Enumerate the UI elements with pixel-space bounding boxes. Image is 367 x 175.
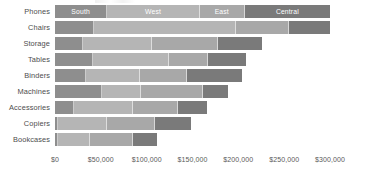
category-label-accessories: Accessories	[0, 101, 50, 114]
stacked-bar-tables[interactable]	[55, 53, 246, 66]
bar-row: PhonesSouthWestEastCentral	[0, 5, 367, 18]
bar-segment-west[interactable]	[74, 101, 133, 114]
series-label-south: South	[71, 8, 90, 15]
bar-segment-west[interactable]	[83, 37, 152, 50]
category-label-bookcases: Bookcases	[0, 133, 50, 146]
bar-segment-west[interactable]	[94, 21, 236, 34]
category-label-storage: Storage	[0, 37, 50, 50]
bar-segment-west[interactable]	[86, 69, 140, 82]
bar-segment-west[interactable]	[93, 53, 169, 66]
bar-segment-south[interactable]	[55, 37, 83, 50]
bar-segment-east[interactable]	[140, 69, 187, 82]
bar-segment-south[interactable]: South	[55, 5, 107, 18]
bar-rows: PhonesSouthWestEastCentralChairsStorageT…	[0, 5, 367, 149]
category-label-machines: Machines	[0, 85, 50, 98]
bar-segment-central[interactable]: Central	[245, 5, 330, 18]
stacked-bar-binders[interactable]	[55, 69, 242, 82]
x-axis-tick-6: $300,000	[315, 156, 345, 163]
bar-segment-east[interactable]: East	[200, 5, 245, 18]
bar-segment-south[interactable]	[55, 85, 102, 98]
bar-segment-south[interactable]	[55, 101, 74, 114]
bar-segment-south[interactable]	[55, 21, 94, 34]
category-label-phones: Phones	[0, 5, 50, 18]
x-axis-tick-4: $200,000	[223, 156, 253, 163]
category-label-tables: Tables	[0, 53, 50, 66]
x-axis-tick-3: $150,000	[178, 156, 208, 163]
stacked-bar-copiers[interactable]	[55, 117, 191, 130]
bar-segment-central[interactable]	[208, 53, 246, 66]
bar-row: Storage	[0, 37, 367, 50]
bar-segment-east[interactable]	[133, 101, 178, 114]
plot-area: PhonesSouthWestEastCentralChairsStorageT…	[0, 0, 367, 152]
bar-segment-central[interactable]	[218, 37, 262, 50]
bar-segment-south[interactable]	[55, 69, 86, 82]
category-label-copiers: Copiers	[0, 117, 50, 130]
series-label-west: West	[145, 8, 161, 15]
bar-segment-central[interactable]	[155, 117, 191, 130]
stacked-bar-storage[interactable]	[55, 37, 262, 50]
bar-segment-east[interactable]	[141, 85, 203, 98]
bar-segment-east[interactable]	[169, 53, 208, 66]
bar-segment-east[interactable]	[236, 21, 289, 34]
bar-segment-central[interactable]	[178, 101, 207, 114]
bar-segment-west[interactable]	[58, 117, 108, 130]
category-label-binders: Binders	[0, 69, 50, 82]
x-axis-tick-5: $250,000	[269, 156, 299, 163]
x-axis: $0$50,000$100,000$150,000$200,000$250,00…	[0, 152, 367, 175]
bar-segment-west[interactable]	[102, 85, 141, 98]
stacked-bar-chairs[interactable]	[55, 21, 330, 34]
category-label-chairs: Chairs	[0, 21, 50, 34]
x-axis-tick-2: $100,000	[132, 156, 162, 163]
bar-segment-east[interactable]	[107, 117, 155, 130]
bar-segment-west[interactable]	[58, 133, 90, 146]
bar-segment-central[interactable]	[289, 21, 330, 34]
bar-row: Binders	[0, 69, 367, 82]
bar-row: Copiers	[0, 117, 367, 130]
bar-row: Machines	[0, 85, 367, 98]
bar-row: Accessories	[0, 101, 367, 114]
bar-row: Bookcases	[0, 133, 367, 146]
stacked-bar-bookcases[interactable]	[55, 133, 157, 146]
stacked-bar-accessories[interactable]	[55, 101, 207, 114]
bar-segment-east[interactable]	[152, 37, 218, 50]
stacked-bar-machines[interactable]	[55, 85, 228, 98]
bar-segment-central[interactable]	[203, 85, 228, 98]
bar-segment-south[interactable]	[55, 53, 93, 66]
bar-segment-central[interactable]	[133, 133, 157, 146]
series-label-central: Central	[276, 8, 299, 15]
bar-row: Tables	[0, 53, 367, 66]
stacked-bar-phones[interactable]: SouthWestEastCentral	[55, 5, 330, 18]
bar-segment-west[interactable]: West	[107, 5, 200, 18]
x-axis-tick-1: $50,000	[88, 156, 114, 163]
x-axis-tick-0: $0	[51, 156, 59, 163]
stacked-bar-chart: PhonesSouthWestEastCentralChairsStorageT…	[0, 0, 367, 175]
bar-row: Chairs	[0, 21, 367, 34]
bar-segment-east[interactable]	[90, 133, 133, 146]
series-label-east: East	[215, 8, 229, 15]
bar-segment-central[interactable]	[187, 69, 242, 82]
